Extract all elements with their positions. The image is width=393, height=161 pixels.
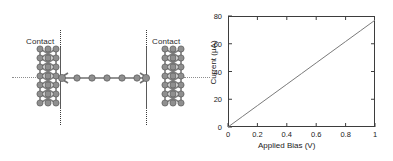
xtick-label-1: 1: [364, 130, 386, 139]
iv-data-line: [228, 20, 375, 127]
right-contact-label: Contact: [152, 37, 180, 46]
xtick-label-0: 0: [217, 130, 239, 139]
y-axis-title: Current (μA): [209, 26, 218, 100]
figure-container: Contact Contact: [0, 0, 393, 161]
current-voltage-chart: 80 60 40 20 0 0 0.2 0.4 0.6 0.8 1 Applie…: [196, 0, 393, 161]
molecular-junction-schematic: Contact Contact: [0, 0, 198, 161]
xtick-label-0.4: 0.4: [276, 130, 298, 139]
x-axis-title: Applied Bias (V): [258, 141, 315, 150]
xtick-label-0.8: 0.8: [335, 130, 357, 139]
molecular-chain: [58, 70, 150, 86]
right-contact-lattice: [160, 45, 186, 111]
left-contact-label: Contact: [26, 37, 54, 46]
xtick-label-0.2: 0.2: [246, 130, 268, 139]
xtick-label-0.6: 0.6: [305, 130, 327, 139]
ytick-label-80: 80: [200, 12, 222, 21]
